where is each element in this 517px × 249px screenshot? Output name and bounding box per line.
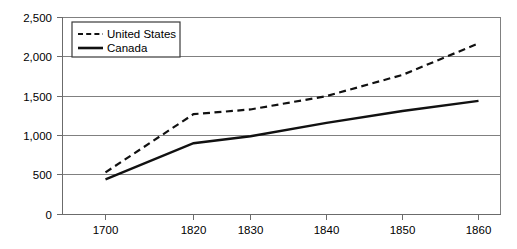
y-axis-labels: 2,500 2,000 1,500 1,000 500 0 [23,12,52,221]
y-axis-label-0: 0 [46,209,52,221]
y-axis-label-500: 500 [33,169,52,181]
legend-label-united-states: United States [107,28,176,40]
legend-label-canada: Canada [107,42,148,54]
y-axis-ticks [57,18,63,215]
line-chart: 2,500 2,000 1,500 1,000 500 0 1700 1820 … [0,0,517,249]
chart-canvas: 2,500 2,000 1,500 1,000 500 0 1700 1820 … [0,0,517,249]
x-axis-label-1850: 1850 [390,224,416,236]
x-axis-label-1860: 1860 [466,224,492,236]
series-line-canada [106,101,479,180]
legend: United States Canada [72,22,180,57]
x-axis-ticks [106,214,479,220]
x-axis-label-1820: 1820 [181,224,207,236]
x-axis-label-1700: 1700 [93,224,119,236]
y-axis-label-2500: 2,500 [23,12,52,24]
y-axis-label-2000: 2,000 [23,51,52,63]
y-axis-label-1000: 1,000 [23,130,52,142]
x-axis-label-1840: 1840 [314,224,340,236]
x-axis-label-1830: 1830 [238,224,264,236]
y-axis-label-1500: 1,500 [23,91,52,103]
x-axis-labels: 1700 1820 1830 1840 1850 1860 [93,224,492,236]
